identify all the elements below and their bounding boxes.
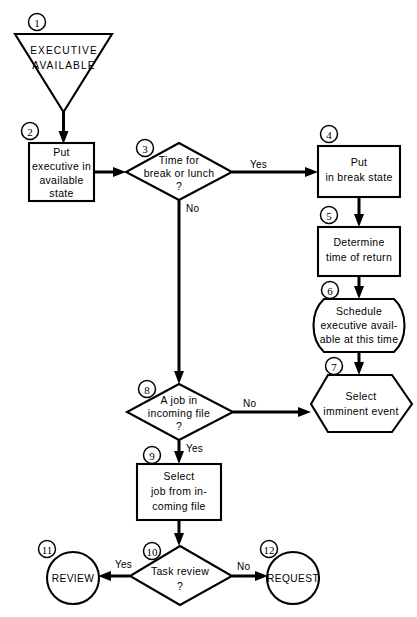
edge-label-no-from-10: No bbox=[237, 561, 250, 572]
node-2-label-line-2: executive in bbox=[32, 160, 91, 172]
node-2-label-line-4: state bbox=[49, 187, 73, 199]
node-7-shape bbox=[311, 375, 412, 432]
node-3-label-line-1: Time for bbox=[159, 154, 200, 166]
edge-9-to-10 bbox=[174, 520, 184, 546]
edge-label-yes-from-10: Yes bbox=[115, 559, 132, 570]
edge-label-yes-from-8: Yes bbox=[186, 443, 203, 454]
edge-3-to-4 bbox=[232, 167, 318, 177]
node-5-label-line-2: time of return bbox=[326, 251, 392, 263]
node-12-tag-label: 12 bbox=[264, 544, 275, 556]
node-6-label-line-1: Schedule bbox=[336, 305, 382, 317]
node-10-label-line-2: ? bbox=[177, 580, 183, 592]
edge-4-to-5 bbox=[354, 197, 364, 227]
node-9-label-line-1: Select bbox=[164, 470, 195, 482]
node-8-tag-label: 8 bbox=[144, 384, 150, 396]
node-1-label-line-2: AVAILABLE bbox=[32, 60, 95, 71]
node-10-label-line-1: Task review bbox=[151, 565, 209, 577]
node-2-put-executive-in-available-state[interactable]: Put executive in available state 2 bbox=[22, 123, 95, 202]
node-10-tag-label: 10 bbox=[147, 546, 159, 558]
node-6-tag-label: 6 bbox=[327, 285, 333, 297]
node-12-request[interactable]: REQUEST 12 bbox=[261, 541, 320, 605]
node-8-label-line-2: incoming file bbox=[148, 407, 210, 419]
node-11-tag-label: 11 bbox=[42, 544, 53, 556]
edge-6-to-7 bbox=[354, 352, 364, 375]
edge-label-no-from-3: No bbox=[186, 203, 199, 214]
node-11-label: REVIEW bbox=[52, 573, 95, 584]
edge-2-to-3 bbox=[94, 167, 126, 177]
node-9-label-line-3: coming file bbox=[152, 500, 206, 512]
node-2-tag-label: 2 bbox=[27, 126, 33, 138]
node-6-label-line-2: executive avail- bbox=[320, 319, 397, 331]
node-7-select-imminent-event[interactable]: Select imminent event 7 bbox=[311, 358, 412, 433]
node-11-review[interactable]: REVIEW 11 bbox=[39, 541, 100, 605]
edge-3-to-8 bbox=[174, 200, 184, 384]
edge-label-yes-from-3: Yes bbox=[250, 159, 267, 170]
node-4-label-line-2: in break state bbox=[325, 171, 392, 183]
node-3-time-for-break-or-lunch[interactable]: Time for break or lunch ? 3 bbox=[126, 140, 232, 201]
node-4-tag-label: 4 bbox=[326, 129, 332, 141]
node-8-label-line-3: ? bbox=[176, 420, 182, 432]
node-1-executive-available[interactable]: EXECUTIVE AVAILABLE 1 bbox=[15, 14, 112, 113]
node-2-label-line-3: available bbox=[39, 174, 83, 186]
node-12-label: REQUEST bbox=[267, 573, 319, 584]
node-10-task-review[interactable]: Task review ? 10 bbox=[130, 543, 232, 606]
node-8-label-line-1: A job in bbox=[161, 394, 198, 406]
node-5-tag-label: 5 bbox=[326, 210, 332, 222]
node-5-label-line-1: Determine bbox=[333, 236, 384, 248]
node-6-label-line-3: able at this time bbox=[320, 333, 399, 345]
edge-label-no-from-8: No bbox=[243, 398, 256, 409]
edge-1-to-2 bbox=[59, 110, 69, 144]
node-9-label-line-2: job from in- bbox=[150, 485, 207, 497]
node-3-tag-label: 3 bbox=[142, 143, 148, 155]
node-7-label-line-2: imminent event bbox=[323, 405, 398, 417]
node-8-a-job-in-incoming-file[interactable]: A job in incoming file ? 8 bbox=[127, 381, 233, 441]
flowchart-page: EXECUTIVE AVAILABLE 1 Put executive in a… bbox=[0, 0, 417, 617]
node-2-label-line-1: Put bbox=[53, 146, 70, 158]
edge-10-to-11 bbox=[98, 571, 130, 581]
node-4-label-line-1: Put bbox=[351, 156, 368, 168]
edge-5-to-6 bbox=[354, 276, 364, 299]
node-9-tag-label: 9 bbox=[149, 450, 155, 462]
node-3-label-line-2: break or lunch bbox=[144, 167, 215, 179]
node-4-put-in-break-state[interactable]: Put in break state 4 bbox=[318, 126, 400, 198]
node-1-tag-label: 1 bbox=[34, 17, 40, 29]
node-7-label-line-1: Select bbox=[346, 390, 377, 402]
edge-10-to-12 bbox=[232, 571, 268, 581]
node-1-label-line-1: EXECUTIVE bbox=[30, 45, 98, 56]
edge-8-to-9 bbox=[174, 440, 184, 464]
node-3-label-line-3: ? bbox=[176, 180, 182, 192]
flowchart-canvas: EXECUTIVE AVAILABLE 1 Put executive in a… bbox=[0, 0, 417, 617]
node-7-tag-label: 7 bbox=[331, 361, 337, 373]
